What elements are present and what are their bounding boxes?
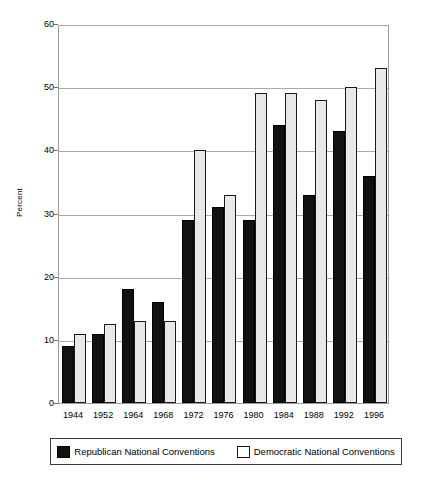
bar-group-1992 <box>330 26 360 403</box>
y-tick-label-30: 30 <box>14 210 54 219</box>
bar-chart-figure: Percent 0102030405060 194419521964196819… <box>0 0 422 480</box>
y-tick-label-10: 10 <box>14 336 54 345</box>
bar-series-container <box>59 26 388 403</box>
bar-democratic-1988 <box>315 100 327 403</box>
legend-label-rep: Republican National Conventions <box>74 446 214 457</box>
bar-democratic-1944 <box>74 334 86 403</box>
bar-group-1964 <box>119 26 149 403</box>
bar-democratic-1980 <box>255 93 267 403</box>
bar-group-1968 <box>149 26 179 403</box>
y-tick-label-50: 50 <box>14 83 54 92</box>
bar-group-1944 <box>59 26 89 403</box>
bar-republican-1992 <box>333 131 345 403</box>
bar-republican-1984 <box>273 125 285 403</box>
bar-group-1972 <box>179 26 209 403</box>
bar-republican-1964 <box>122 289 134 403</box>
chart-legend: Republican National ConventionsDemocrati… <box>50 438 402 465</box>
bar-republican-1980 <box>243 220 255 403</box>
legend-entry-rep: Republican National Conventions <box>57 446 214 458</box>
bar-republican-1988 <box>303 195 315 403</box>
y-tick-label-20: 20 <box>14 273 54 282</box>
bar-group-1976 <box>209 26 239 403</box>
legend-entry-dem: Democratic National Conventions <box>237 446 395 458</box>
bar-democratic-1968 <box>164 321 176 403</box>
bar-democratic-1992 <box>345 87 357 403</box>
plot-area <box>58 25 389 404</box>
bar-republican-1996 <box>363 176 375 403</box>
bar-group-1984 <box>270 26 300 403</box>
legend-swatch-rep <box>57 446 70 458</box>
bar-democratic-1952 <box>104 324 116 403</box>
bar-republican-1968 <box>152 302 164 403</box>
bar-group-1952 <box>89 26 119 403</box>
y-tick-label-40: 40 <box>14 146 54 155</box>
y-tick-label-0: 0 <box>14 399 54 408</box>
bar-democratic-1972 <box>194 150 206 403</box>
legend-swatch-dem <box>237 446 250 458</box>
bar-republican-1944 <box>62 346 74 403</box>
bar-republican-1972 <box>182 220 194 403</box>
bar-group-1988 <box>300 26 330 403</box>
bar-republican-1976 <box>212 207 224 403</box>
y-axis-title: Percent <box>15 163 24 243</box>
bar-republican-1952 <box>92 334 104 403</box>
bar-democratic-1964 <box>134 321 146 403</box>
bar-group-1996 <box>360 26 390 403</box>
bar-democratic-1984 <box>285 93 297 403</box>
y-tick-label-60: 60 <box>14 20 54 29</box>
bar-democratic-1976 <box>224 195 236 403</box>
legend-label-dem: Democratic National Conventions <box>254 446 395 457</box>
x-tick-label-1996: 1996 <box>354 410 394 420</box>
bar-democratic-1996 <box>375 68 387 403</box>
bar-group-1980 <box>240 26 270 403</box>
